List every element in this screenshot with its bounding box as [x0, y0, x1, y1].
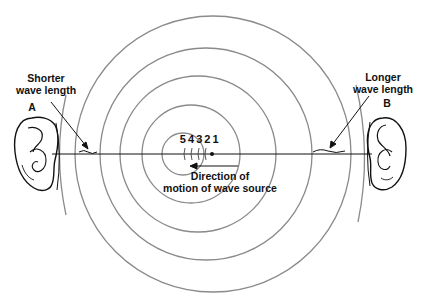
- ear-b-label: B: [381, 97, 393, 109]
- long-wave-squiggle: [313, 150, 345, 153]
- outer-arc-left: [60, 95, 67, 215]
- ear-a-icon: [15, 117, 58, 190]
- diagram-canvas: [0, 0, 422, 304]
- source-positions-label: 5 4 3 2 1: [178, 133, 220, 145]
- longer-label-line1: Longer: [348, 71, 418, 83]
- direction-arrow: [190, 163, 238, 169]
- longer-label-line2: wave length: [348, 83, 418, 95]
- direction-label-line2: motion of wave source: [160, 182, 280, 194]
- doppler-diagram: Shorter wave length A Longer wave length…: [0, 0, 422, 304]
- direction-label: Direction of motion of wave source: [160, 170, 280, 194]
- wave-source-dot: [210, 152, 214, 156]
- longer-pointer-arrow: [330, 96, 369, 148]
- shorter-label: Shorter wave length: [16, 72, 76, 96]
- ear-b-icon: [368, 118, 407, 190]
- shorter-label-line1: Shorter: [16, 72, 76, 84]
- short-wave-squiggle: [79, 151, 97, 154]
- shorter-label-line2: wave length: [16, 84, 76, 96]
- direction-label-line1: Direction of: [160, 170, 280, 182]
- longer-label: Longer wave length: [348, 71, 418, 95]
- ear-a-label: A: [26, 101, 38, 113]
